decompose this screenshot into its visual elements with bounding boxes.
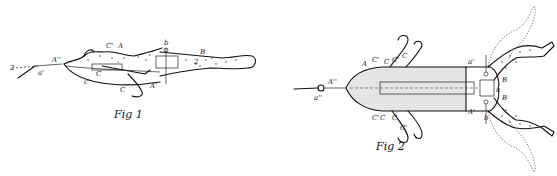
- body-shaded: [346, 67, 466, 111]
- body-top-outline: [64, 48, 162, 64]
- label-hinge: a: [496, 86, 500, 94]
- hinge-block: [480, 80, 494, 96]
- label-line-end: 2: [9, 64, 15, 72]
- figure-2-caption: Fig 2: [375, 140, 405, 153]
- label-body-lower: A': [467, 108, 475, 116]
- leg-outline: [160, 52, 255, 76]
- label-eyelet: a'': [314, 94, 322, 102]
- leg-top: [488, 42, 554, 80]
- label-nose: A'': [51, 56, 61, 64]
- label-hook-top-4: C: [402, 52, 408, 60]
- figure-1-caption: Fig 1: [113, 108, 143, 121]
- label-hook-top-1: C': [372, 56, 379, 64]
- label-hook-top-3: C': [392, 56, 399, 64]
- label-eyelet: a': [38, 69, 44, 77]
- label-leg-inner: 2: [193, 58, 199, 66]
- line-leader: [294, 88, 318, 89]
- label-leg-bottom: B: [501, 94, 507, 102]
- label-body-lower: A': [149, 82, 157, 90]
- label-hook-bot-3: C: [392, 114, 398, 122]
- label-top-left: A: [361, 60, 367, 68]
- figure-2-top-view: a'' A'' A C' C C' C C' C C C' a' B a B A…: [280, 0, 557, 176]
- frog-lure-side-drawing: 2 a' A'' C' A b B 2 C c' C A' Fig 1: [0, 0, 280, 176]
- figure-1-side-view: 2 a' A'' C' A b B 2 C c' C A' Fig 1: [0, 0, 280, 176]
- pin-top: [484, 72, 488, 76]
- label-hook-bot-4: C': [400, 124, 407, 132]
- label-leg-top: B: [501, 76, 507, 84]
- label-joint-top: a': [468, 58, 474, 66]
- leg-bottom-extended: [488, 112, 535, 172]
- label-pin: b: [484, 114, 489, 122]
- pin-bottom: [484, 100, 488, 104]
- leg-bottom: [488, 98, 554, 136]
- hinge-block: [156, 56, 178, 68]
- eyelet: [318, 85, 324, 91]
- label-hook-top-2: C: [384, 58, 390, 66]
- label-hook-bot-2: C: [380, 114, 386, 122]
- label-shank: C: [96, 70, 102, 78]
- hook-bottom: [128, 74, 142, 97]
- label-leg: B: [199, 48, 205, 56]
- label-hook-top: C': [106, 42, 113, 50]
- frog-lure-top-drawing: a'' A'' A C' C C' C C' C C C' a' B a B A…: [280, 0, 557, 176]
- label-hook-bottom: C: [120, 86, 126, 94]
- label-belly: c': [84, 78, 90, 86]
- hook-bottom-right: [408, 111, 422, 139]
- label-hook-bot-1: C': [372, 114, 379, 122]
- line-leader: [18, 66, 35, 78]
- label-nose: A'': [327, 78, 337, 86]
- hook-top-right: [406, 41, 422, 67]
- label-pin: b: [164, 39, 169, 47]
- label-top-body: A: [117, 42, 123, 50]
